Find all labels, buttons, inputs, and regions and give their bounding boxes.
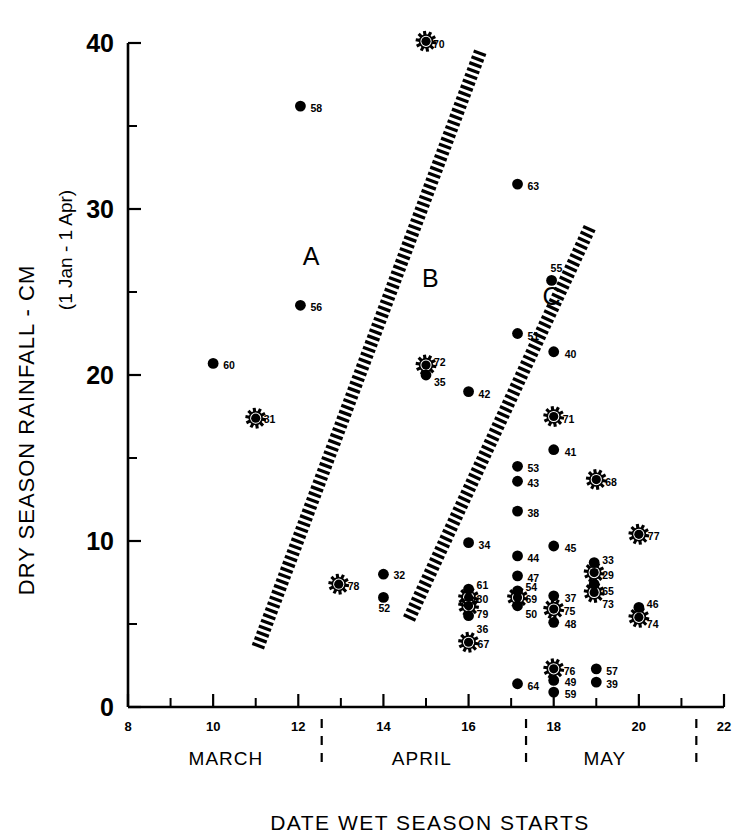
point-marker <box>548 687 559 698</box>
point-marker <box>590 568 599 577</box>
point-marker <box>464 638 473 647</box>
point-marker <box>549 604 558 613</box>
scatter-plot-figure: DRY SEASON RAINFALL - CM (1 Jan - 1 Apr)… <box>0 0 753 840</box>
point-marker <box>512 461 523 472</box>
point-marker <box>463 537 474 548</box>
point-marker <box>512 678 523 689</box>
region-label-b: B <box>422 264 439 292</box>
point-label: 52 <box>378 602 390 614</box>
x-axis-title: DATE WET SEASON STARTS <box>270 811 590 834</box>
point-label: 39 <box>606 678 618 690</box>
point-label: 75 <box>564 605 576 617</box>
point-label: 36 <box>477 623 489 635</box>
month-label: MARCH <box>189 748 264 769</box>
point-label: 79 <box>477 608 489 620</box>
point-label: 56 <box>310 301 322 313</box>
point-marker <box>546 275 557 286</box>
x-tick-label: 8 <box>124 719 131 734</box>
point-label: 44 <box>528 552 540 564</box>
point-label: 30 <box>477 593 489 605</box>
point-label: 34 <box>479 539 491 551</box>
point-marker <box>512 506 523 517</box>
point-marker <box>251 414 260 423</box>
point-label: 71 <box>563 413 575 425</box>
point-label: 31 <box>264 413 276 425</box>
point-label: 41 <box>565 446 577 458</box>
y-tick-label: 30 <box>86 195 114 223</box>
y-axis-title: DRY SEASON RAINFALL - CM <box>14 265 39 595</box>
point-marker <box>421 370 432 381</box>
point-marker <box>464 601 473 610</box>
y-tick-label: 40 <box>86 29 114 57</box>
point-label: 51 <box>528 330 540 342</box>
point-marker <box>512 600 523 611</box>
point-marker <box>208 358 219 369</box>
x-tick-label: 12 <box>291 719 305 734</box>
point-label: 59 <box>565 688 577 700</box>
point-marker <box>295 101 306 112</box>
point-label: 64 <box>528 680 540 692</box>
x-tick-label: 16 <box>461 719 475 734</box>
point-marker <box>548 617 559 628</box>
x-tick-label: 14 <box>376 719 391 734</box>
y-tick-label: 20 <box>86 361 114 389</box>
x-tick-label: 20 <box>632 719 646 734</box>
point-label: 53 <box>528 462 540 474</box>
point-label: 35 <box>434 376 446 388</box>
point-marker <box>591 663 602 674</box>
x-tick-label: 10 <box>206 719 220 734</box>
point-label: 29 <box>602 569 614 581</box>
point-label: 67 <box>478 638 490 650</box>
point-marker <box>548 444 559 455</box>
point-label: 78 <box>348 580 360 592</box>
y-tick-label: 10 <box>86 527 114 555</box>
point-marker <box>512 476 523 487</box>
point-label: 63 <box>528 180 540 192</box>
point-marker <box>378 592 389 603</box>
point-label: 68 <box>605 476 617 488</box>
point-label: 60 <box>223 359 235 371</box>
point-label: 43 <box>528 477 540 489</box>
point-label: 33 <box>602 554 614 566</box>
point-label: 42 <box>479 388 491 400</box>
point-label: 57 <box>606 665 618 677</box>
point-label: 32 <box>393 569 405 581</box>
point-label: 70 <box>433 38 445 50</box>
x-tick-label: 18 <box>546 719 560 734</box>
point-label: 77 <box>648 530 660 542</box>
point-label: 72 <box>434 356 446 368</box>
point-marker <box>512 551 523 562</box>
point-marker <box>463 610 474 621</box>
point-marker <box>634 530 643 539</box>
point-marker <box>548 675 559 686</box>
point-label: 73 <box>602 598 614 610</box>
point-marker <box>549 412 558 421</box>
region-label-a: A <box>303 242 320 270</box>
point-marker <box>295 300 306 311</box>
point-marker <box>421 37 430 46</box>
y-tick-label: 0 <box>100 693 114 721</box>
point-label: 50 <box>526 608 538 620</box>
month-label: APRIL <box>392 748 452 769</box>
point-label: 37 <box>565 592 577 604</box>
point-marker <box>548 541 559 552</box>
point-label: 76 <box>564 665 576 677</box>
point-marker <box>634 613 643 622</box>
x-tick-label: 22 <box>717 719 731 734</box>
point-label: 55 <box>551 262 563 274</box>
point-marker <box>512 328 523 339</box>
region-label-c: C <box>543 282 561 310</box>
point-label: 49 <box>565 676 577 688</box>
point-marker <box>591 677 602 688</box>
point-label: 45 <box>565 542 577 554</box>
point-label: 74 <box>647 618 659 630</box>
point-marker <box>378 569 389 580</box>
point-label: 48 <box>565 618 577 630</box>
point-label: 69 <box>526 593 538 605</box>
point-marker <box>512 570 523 581</box>
point-marker <box>421 360 430 369</box>
chart-svg: DRY SEASON RAINFALL - CM (1 Jan - 1 Apr)… <box>0 0 753 840</box>
point-marker <box>512 179 523 190</box>
point-label: 58 <box>310 102 322 114</box>
point-marker <box>548 346 559 357</box>
